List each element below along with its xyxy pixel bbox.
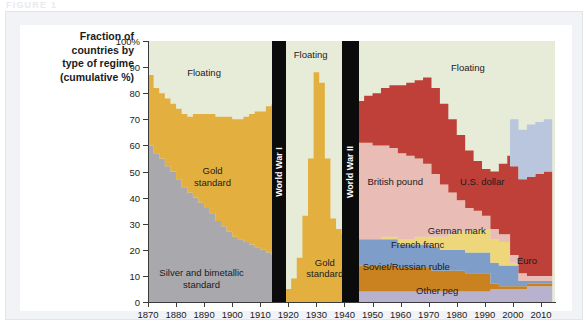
y-axis-tick-mark — [143, 276, 148, 277]
y-axis-tick-label: 90 — [104, 62, 140, 73]
y-axis-tick-mark — [143, 145, 148, 146]
y-axis-tick-mark — [143, 198, 148, 199]
war-band-2: World War II — [342, 41, 359, 302]
y-axis-tick-label: 0 — [104, 297, 140, 308]
x-axis-tick-mark — [485, 302, 486, 307]
x-axis-tick-mark — [316, 302, 317, 307]
war-band-label: World War I — [274, 147, 284, 197]
y-axis-tick-mark — [143, 224, 148, 225]
y-axis-tick-label: 30 — [104, 218, 140, 229]
figure-root: FIGURE 1 Fraction ofcountries bytype of … — [0, 0, 588, 333]
x-axis-tick-mark — [457, 302, 458, 307]
x-axis-tick-mark — [513, 302, 514, 307]
y-axis-tick-label: 70 — [104, 114, 140, 125]
x-axis-tick-mark — [288, 302, 289, 307]
x-axis-tick-mark — [204, 302, 205, 307]
y-axis-tick-label: 80 — [104, 88, 140, 99]
y-axis-tick-label: 10 — [104, 270, 140, 281]
y-axis-tick-mark — [143, 93, 148, 94]
x-axis-tick-label: 2010 — [521, 309, 561, 320]
y-axis-tick-label: 100% — [104, 36, 140, 47]
y-axis-tick-label: 50 — [104, 166, 140, 177]
x-axis-tick-mark — [429, 302, 430, 307]
x-axis-tick-mark — [176, 302, 177, 307]
y-axis-tick-label: 20 — [104, 244, 140, 255]
x-axis-tick-mark — [541, 302, 542, 307]
chart-plot-area: World War IWorld War IIFloatingFloatingF… — [148, 41, 555, 302]
y-axis-tick-mark — [143, 119, 148, 120]
war-band-label: World War II — [345, 145, 355, 197]
war-band-1: World War I — [272, 41, 286, 302]
y-axis-tick-mark — [143, 41, 148, 42]
x-axis-tick-mark — [232, 302, 233, 307]
x-axis-tick-mark — [344, 302, 345, 307]
x-axis-tick-mark — [260, 302, 261, 307]
y-axis-tick-label: 40 — [104, 192, 140, 203]
y-axis-tick-label: 60 — [104, 140, 140, 151]
x-axis-tick-mark — [401, 302, 402, 307]
x-axis-tick-mark — [148, 302, 149, 307]
page-top-strip — [0, 0, 588, 12]
figure-kicker: FIGURE 1 — [6, 0, 57, 10]
y-axis-tick-mark — [143, 172, 148, 173]
y-axis-tick-mark — [143, 250, 148, 251]
y-axis-tick-mark — [143, 67, 148, 68]
x-axis-tick-mark — [373, 302, 374, 307]
